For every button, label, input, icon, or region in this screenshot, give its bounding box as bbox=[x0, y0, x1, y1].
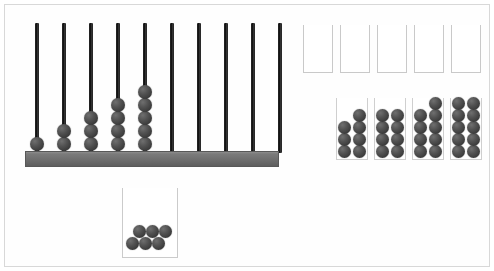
empty-box-5[interactable] bbox=[451, 25, 481, 73]
bead[interactable] bbox=[467, 109, 480, 122]
bead[interactable] bbox=[429, 109, 442, 122]
bead[interactable] bbox=[452, 133, 465, 146]
bead-pile-1[interactable] bbox=[336, 98, 368, 160]
empty-box-4[interactable] bbox=[414, 25, 444, 73]
bead[interactable] bbox=[452, 109, 465, 122]
loose-bead-tray[interactable] bbox=[122, 188, 178, 258]
bead[interactable] bbox=[391, 109, 404, 122]
bead[interactable] bbox=[138, 124, 152, 138]
bead[interactable] bbox=[138, 137, 152, 151]
bead[interactable] bbox=[152, 237, 165, 250]
bead[interactable] bbox=[111, 124, 125, 138]
bead[interactable] bbox=[429, 145, 442, 158]
bead[interactable] bbox=[138, 85, 152, 99]
bead[interactable] bbox=[126, 237, 139, 250]
bead[interactable] bbox=[353, 121, 366, 134]
empty-box-2[interactable] bbox=[340, 25, 370, 73]
bead-pile-4[interactable] bbox=[450, 98, 482, 160]
bead[interactable] bbox=[353, 145, 366, 158]
bead[interactable] bbox=[452, 121, 465, 134]
bead[interactable] bbox=[376, 109, 389, 122]
bead[interactable] bbox=[338, 145, 351, 158]
bead[interactable] bbox=[146, 225, 159, 238]
bead[interactable] bbox=[133, 225, 146, 238]
bead[interactable] bbox=[391, 133, 404, 146]
bead[interactable] bbox=[391, 145, 404, 158]
bead[interactable] bbox=[429, 97, 442, 110]
abacus[interactable] bbox=[19, 19, 281, 167]
bead[interactable] bbox=[111, 111, 125, 125]
bead[interactable] bbox=[138, 111, 152, 125]
bead[interactable] bbox=[338, 133, 351, 146]
bead[interactable] bbox=[414, 145, 427, 158]
bead[interactable] bbox=[159, 225, 172, 238]
bead[interactable] bbox=[84, 124, 98, 138]
bead[interactable] bbox=[414, 109, 427, 122]
bead-pile-3[interactable] bbox=[412, 98, 444, 160]
bead[interactable] bbox=[353, 109, 366, 122]
bead[interactable] bbox=[414, 133, 427, 146]
abacus-base-bar bbox=[25, 151, 279, 167]
bead[interactable] bbox=[338, 121, 351, 134]
bead[interactable] bbox=[376, 145, 389, 158]
bead[interactable] bbox=[467, 121, 480, 134]
empty-box-1[interactable] bbox=[303, 25, 333, 73]
abacus-bead-layer[interactable] bbox=[19, 19, 281, 167]
bead[interactable] bbox=[376, 133, 389, 146]
bead[interactable] bbox=[84, 137, 98, 151]
bead[interactable] bbox=[353, 133, 366, 146]
bead[interactable] bbox=[467, 97, 480, 110]
bead[interactable] bbox=[57, 137, 71, 151]
bead[interactable] bbox=[111, 98, 125, 112]
bead[interactable] bbox=[138, 98, 152, 112]
bead[interactable] bbox=[429, 133, 442, 146]
bead[interactable] bbox=[391, 121, 404, 134]
bead[interactable] bbox=[57, 124, 71, 138]
bead[interactable] bbox=[429, 121, 442, 134]
scene-frame bbox=[4, 4, 490, 267]
bead[interactable] bbox=[467, 133, 480, 146]
bead[interactable] bbox=[111, 137, 125, 151]
bead-pile-2[interactable] bbox=[374, 98, 406, 160]
bead[interactable] bbox=[467, 145, 480, 158]
scene-canvas bbox=[0, 0, 494, 271]
bead[interactable] bbox=[414, 121, 427, 134]
empty-box-3[interactable] bbox=[377, 25, 407, 73]
bead[interactable] bbox=[376, 121, 389, 134]
bead[interactable] bbox=[139, 237, 152, 250]
bead[interactable] bbox=[452, 145, 465, 158]
bead[interactable] bbox=[84, 111, 98, 125]
bead[interactable] bbox=[30, 137, 44, 151]
bead[interactable] bbox=[452, 97, 465, 110]
